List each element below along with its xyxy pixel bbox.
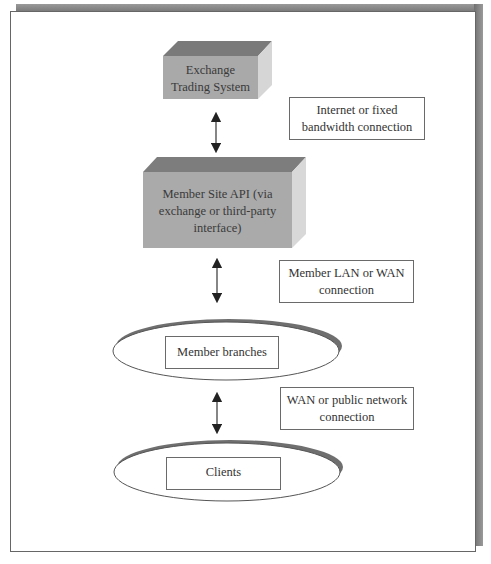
exchange-trading-system-label: Exchange Trading System — [163, 62, 258, 96]
member-site-api-label: Member Site API (via exchange or third-p… — [143, 186, 292, 237]
connection-label-member-lan-wan: Member LAN or WAN connection — [279, 260, 414, 303]
connection-label-wan-public: WAN or public network connection — [280, 387, 414, 430]
clients-label: Clients — [206, 464, 241, 481]
connection-label-internet: Internet or fixed bandwidth connection — [289, 97, 425, 140]
member-branches-box: Member branches — [165, 336, 279, 369]
member-branches-label: Member branches — [177, 344, 267, 361]
clients-box: Clients — [166, 457, 281, 490]
